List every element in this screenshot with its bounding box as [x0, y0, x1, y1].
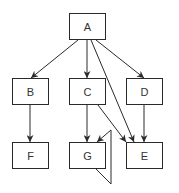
edge-a-b: [31, 40, 78, 78]
node-g[interactable]: G: [69, 142, 106, 169]
node-a-label: A: [84, 21, 91, 33]
node-b[interactable]: B: [12, 78, 49, 105]
node-c-label: C: [84, 86, 92, 98]
node-g-label: G: [83, 150, 92, 162]
node-e-label: E: [141, 150, 148, 162]
node-c[interactable]: C: [69, 78, 106, 105]
node-d[interactable]: D: [126, 78, 163, 105]
node-d-label: D: [141, 86, 149, 98]
graph-diagram: A B C D F G E: [0, 0, 179, 193]
edge-c-e: [98, 105, 126, 142]
node-a[interactable]: A: [69, 13, 106, 40]
node-f[interactable]: F: [12, 142, 49, 169]
edge-a-d: [96, 40, 144, 78]
node-e[interactable]: E: [126, 142, 163, 169]
node-b-label: B: [27, 86, 34, 98]
node-f-label: F: [27, 150, 34, 162]
